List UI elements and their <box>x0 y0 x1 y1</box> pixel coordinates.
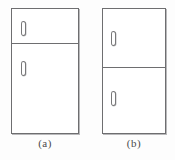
freezer-door-b <box>103 9 165 67</box>
freezer-door-handle-icon-a <box>21 21 26 36</box>
freezer-door-a <box>12 9 78 43</box>
fridge-door-handle-icon-a <box>21 61 26 76</box>
panel-caption-b: (b) <box>102 137 166 149</box>
fridge-door-b <box>103 69 165 133</box>
fridge-door-handle-icon-b <box>111 91 116 106</box>
panel-caption-a: (a) <box>11 137 79 149</box>
refrigerator-figure-b <box>102 8 166 134</box>
refrigerator-figure-a <box>11 8 79 134</box>
freezer-door-handle-icon-b <box>111 31 116 46</box>
figure-canvas: (a) (b) <box>0 0 175 160</box>
cabinet-outline-b <box>102 8 166 134</box>
fridge-door-a <box>12 45 78 133</box>
cabinet-outline-a <box>11 8 79 134</box>
